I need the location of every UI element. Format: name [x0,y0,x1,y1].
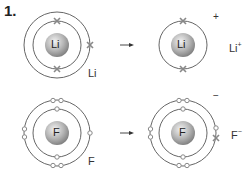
nucleus-symbol-li: Li [51,38,60,50]
atom-label-f: F [88,155,95,167]
electron-dot-icon [59,163,63,167]
arrow-icon [120,43,134,47]
electron-dot-icon [181,107,185,111]
arrow-icon [120,131,134,135]
electron-dot-icon [181,155,185,159]
ion-symbol: Li [229,42,238,54]
electron-dot-icon [148,135,152,139]
ionic-bonding-diagram [0,0,244,172]
ion-superscript: − [238,128,242,135]
ion-charge-li: + [213,11,219,22]
electron-dot-icon [22,127,26,131]
electron-dot-icon [51,163,55,167]
ion-label-li: Li+ [229,41,242,54]
electron-dot-icon [22,135,26,139]
electron-dot-icon [177,163,181,167]
nucleus-symbol-li-ion: Li [177,38,186,50]
nucleus-symbol-f-ion: F [179,126,186,138]
electron-dot-icon [214,126,218,130]
ion-label-f: F− [231,128,242,141]
electron-dot-icon [185,98,189,102]
electron-dot-icon [177,98,181,102]
ion-symbol: F [231,129,238,141]
electron-dot-icon [59,98,63,102]
electron-dot-icon [148,127,152,131]
electron-dot-icon [51,98,55,102]
ion-superscript: + [238,41,242,48]
nucleus-symbol-f: F [53,126,60,138]
electron-dot-icon [55,107,59,111]
electron-dot-icon [185,163,189,167]
electron-dot-icon [88,131,92,135]
ion-charge-f: − [213,90,219,101]
atom-label-li: Li [88,67,97,79]
electron-dot-icon [55,155,59,159]
